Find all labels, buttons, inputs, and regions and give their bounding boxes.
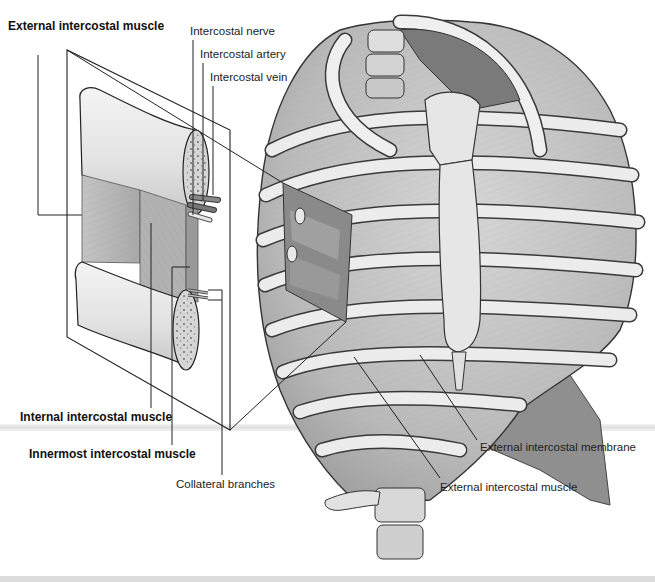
label-external-intercostal-membrane: External intercostal membrane xyxy=(480,440,636,454)
label-external-intercostal-muscle-inset: External intercostal muscle xyxy=(8,19,164,33)
anatomy-figure: External intercostal muscle Intercostal … xyxy=(0,0,655,582)
ribcage xyxy=(257,20,638,559)
label-internal-intercostal-muscle: Internal intercostal muscle xyxy=(20,410,172,424)
illustration xyxy=(0,0,655,582)
label-collateral-branches: Collateral branches xyxy=(176,477,275,491)
vertebrae-lower xyxy=(325,488,425,559)
vertebrae-upper xyxy=(366,30,404,98)
label-intercostal-nerve: Intercostal nerve xyxy=(190,24,275,38)
label-intercostal-vein: Intercostal vein xyxy=(210,70,287,84)
label-innermost-intercostal-muscle: Innermost intercostal muscle xyxy=(29,447,196,461)
label-intercostal-artery: Intercostal artery xyxy=(200,47,286,61)
label-external-intercostal-muscle: External intercostal muscle xyxy=(440,480,577,494)
